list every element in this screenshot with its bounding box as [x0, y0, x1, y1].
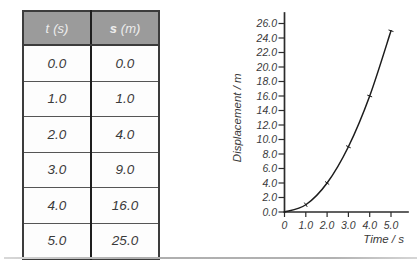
y-tick-label: 16.0 [257, 90, 278, 102]
x-tick-label: 3.0 [341, 219, 356, 231]
y-tick-label: 22.0 [256, 46, 278, 58]
y-axis-title: Displacement / m [231, 73, 243, 162]
y-tick-label: 8.0 [262, 148, 277, 160]
y-tick-label: 2.0 [261, 191, 277, 203]
x-tick-label: 1.0 [298, 219, 313, 231]
y-tick-label: 4.0 [262, 177, 277, 189]
x-tick-label: 2.0 [319, 219, 335, 231]
y-tick-label: 20.0 [256, 61, 278, 73]
y-tick-label: 12.0 [257, 119, 278, 131]
x-tick-label: 5.0 [384, 219, 399, 231]
displacement-curve [285, 31, 392, 212]
bottom-divider [4, 257, 417, 259]
y-tick-label: 14.0 [257, 104, 278, 116]
figure-canvas: t(s) s(m) 0.0 0.0 1.0 1.0 2.0 4.0 3.0 9.… [0, 0, 417, 265]
y-tick-label: 24.0 [256, 32, 278, 44]
y-tick-label: 18.0 [257, 75, 278, 87]
y-tick-label: 10.0 [257, 133, 278, 145]
y-tick-label: 0.0 [262, 206, 277, 218]
x-tick-label: 0 [282, 219, 288, 231]
x-axis-title: Time / s [363, 233, 404, 245]
y-tick-label: 26.0 [256, 17, 278, 29]
x-tick-label: 4.0 [362, 219, 377, 231]
y-tick-label: 6.0 [262, 162, 277, 174]
displacement-time-graph: 0.02.04.06.08.010.012.014.016.018.020.02… [0, 0, 417, 265]
